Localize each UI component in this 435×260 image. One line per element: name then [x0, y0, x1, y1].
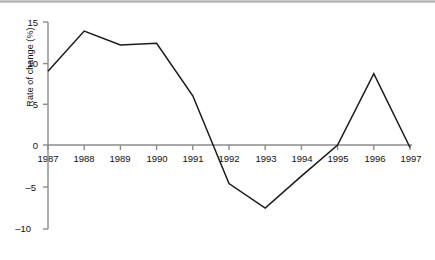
data-series-line: [48, 31, 410, 208]
chart-figure: Rate of change (%) 15 10 5 0 –5 –10 1987…: [0, 0, 435, 260]
y-axis: [43, 22, 48, 229]
x-axis: [48, 145, 412, 150]
plot-area: [0, 0, 435, 260]
